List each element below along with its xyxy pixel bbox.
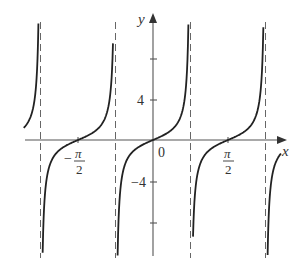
axes [25,20,280,256]
curve-branch [24,23,39,127]
pi-numerator: π [224,146,231,161]
curve-branch [193,27,263,236]
minus-sign: − [64,151,72,166]
pi-numerator: π [75,146,82,161]
pi-denominator: 2 [225,162,232,177]
x-label-pi-over-2: π 2 [223,146,234,177]
origin-label: 0 [158,145,165,160]
x-axis-label: x [281,143,289,159]
y-label-4: 4 [137,93,144,108]
y-axis-label: y [136,11,145,27]
curve-branch [268,154,281,255]
y-axis-arrow-icon [149,13,157,23]
y-label-neg4: −4 [131,175,146,190]
pi-denominator: 2 [76,162,83,177]
x-label-neg-pi-over-2: − π 2 [64,146,85,177]
tangent-graph: x y 0 4 −4 − π 2 π 2 [0,0,301,266]
